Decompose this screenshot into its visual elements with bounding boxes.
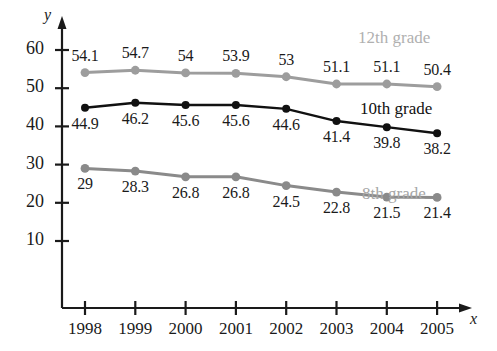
y-tick-label: 60 <box>8 38 44 59</box>
data-point-label: 54.7 <box>113 44 157 62</box>
series-label-10th-grade: 10th grade <box>360 99 432 119</box>
y-tick-label: 50 <box>8 76 44 97</box>
data-point-label: 29 <box>63 175 107 193</box>
data-point-label: 41.4 <box>315 128 359 146</box>
data-point-label: 26.8 <box>214 184 258 202</box>
x-tick-label: 2002 <box>260 319 312 339</box>
data-point-label: 24.5 <box>264 193 308 211</box>
y-tick-label: 40 <box>8 114 44 135</box>
data-point-label: 51.1 <box>315 58 359 76</box>
y-axis-label: y <box>44 6 51 24</box>
x-axis-label: x <box>470 310 477 328</box>
data-point-label: 50.4 <box>415 61 459 79</box>
data-point-label: 21.5 <box>365 204 409 222</box>
data-point-label: 21.4 <box>415 204 459 222</box>
data-point-label: 26.8 <box>164 184 208 202</box>
y-tick-label: 30 <box>8 153 44 174</box>
x-tick-label: 2000 <box>160 319 212 339</box>
x-tick-label: 2005 <box>411 319 463 339</box>
x-tick-label: 2001 <box>210 319 262 339</box>
series-label-8th-grade: 8th grade <box>362 184 426 204</box>
data-point-label: 45.6 <box>214 112 258 130</box>
series-label-12th-grade: 12th grade <box>358 28 430 48</box>
line-chart: y x 102030405060 19981999200020012002200… <box>0 0 497 351</box>
x-tick-label: 1998 <box>59 319 111 339</box>
x-tick-label: 2003 <box>311 319 363 339</box>
x-tick-label: 2004 <box>361 319 413 339</box>
x-tick-label: 1999 <box>109 319 161 339</box>
data-point-label: 44.6 <box>264 116 308 134</box>
data-point-label: 53.9 <box>214 47 258 65</box>
data-point-label: 38.2 <box>415 140 459 158</box>
data-point-label: 54 <box>164 47 208 65</box>
data-point-label: 28.3 <box>113 178 157 196</box>
y-tick-label: 10 <box>8 229 44 250</box>
data-point-label: 53 <box>264 51 308 69</box>
data-point-label: 51.1 <box>365 58 409 76</box>
data-point-label: 22.8 <box>315 199 359 217</box>
data-point-label: 45.6 <box>164 112 208 130</box>
data-point-label: 54.1 <box>63 47 107 65</box>
y-tick-label: 20 <box>8 191 44 212</box>
data-point-label: 46.2 <box>113 110 157 128</box>
data-point-label: 39.8 <box>365 134 409 152</box>
data-point-label: 44.9 <box>63 115 107 133</box>
